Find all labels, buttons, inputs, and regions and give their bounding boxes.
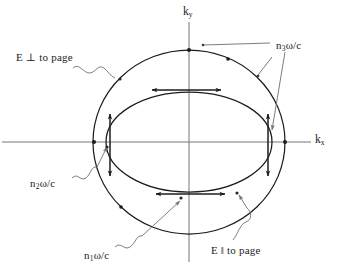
leader-n2-wavy (72, 167, 97, 179)
ky-axis-label-text: k (183, 5, 189, 17)
label-n3-omega-over-c: n3ω/c (276, 40, 301, 51)
label-n2-tail: ω/c (40, 177, 56, 189)
marker-leader-n3-b (257, 75, 260, 78)
diagram-canvas: ky kx n3ω/c n2ω/c n1ω/c E ⊥ to page E ‖ … (0, 0, 341, 273)
label-n1-sub: 1 (90, 254, 94, 263)
kx-axis-label-sub: x (321, 138, 325, 147)
label-n3-base: n (276, 39, 282, 51)
label-n1-base: n (84, 249, 90, 261)
leader-n3-to-top (203, 43, 270, 45)
marker-circle-left (92, 140, 96, 144)
leader-eperp-wavy (73, 66, 115, 78)
label-n1-tail: ω/c (94, 249, 110, 261)
label-n1-omega-over-c: n1ω/c (84, 250, 109, 261)
marker-ellipse-left (105, 145, 108, 148)
leader-n1-straight (142, 201, 180, 236)
label-n2-sub: 2 (36, 182, 40, 191)
leader-epar-straight (239, 195, 247, 208)
ky-axis-label: ky (183, 6, 193, 18)
ky-axis-label-sub: y (189, 10, 193, 19)
leader-epar-wavy (233, 208, 251, 240)
leader-n3-stub (258, 57, 272, 75)
marker-leader-n3-a (202, 44, 205, 47)
marker-circle-upper-right (226, 57, 230, 61)
leader-n3-to-right (272, 52, 285, 130)
label-n2-omega-over-c: n2ω/c (30, 178, 55, 189)
marker-circle-top (187, 48, 191, 52)
label-e-perpendicular-to-page: E ⊥ to page (16, 52, 73, 63)
label-n3-sub: 3 (282, 44, 286, 53)
marker-circle-lower-left (119, 205, 123, 209)
marker-ellipse-lower-right (235, 191, 238, 194)
kx-axis-label-text: k (315, 133, 321, 145)
label-n2-base: n (30, 177, 36, 189)
marker-circle-right (283, 140, 287, 144)
leader-n2-straight (97, 147, 107, 167)
marker-circle-upper-left (118, 77, 121, 80)
label-n3-tail: ω/c (286, 39, 302, 51)
kx-axis-label: kx (315, 134, 325, 146)
leader-n1-wavy (115, 236, 142, 248)
label-e-parallel-to-page: E ‖ to page (211, 245, 261, 256)
marker-ellipse-bottom (179, 196, 182, 199)
